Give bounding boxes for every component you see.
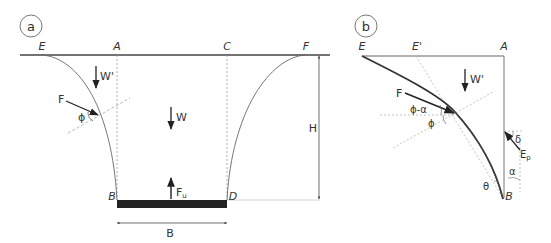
anchor-plate bbox=[117, 200, 227, 208]
force-w-prime: W' bbox=[100, 70, 114, 83]
point-d: D bbox=[229, 190, 237, 203]
diagram-canvas: a E A C F B D W' W F ϕ Fu bbox=[0, 0, 551, 243]
point-b-b: B bbox=[505, 190, 513, 203]
dimension-height: H bbox=[309, 122, 317, 135]
force-f: F bbox=[58, 93, 64, 106]
force-fu: Fu bbox=[176, 186, 187, 200]
angle-arc-phi-b bbox=[443, 115, 446, 124]
point-a: A bbox=[112, 40, 121, 53]
angle-arc-delta bbox=[511, 131, 513, 139]
angle-arc-alpha bbox=[508, 177, 520, 180]
point-e-prime: E' bbox=[412, 40, 422, 53]
panel-b: b E E' A B W' F ϕ-α ϕ δ Ep bbox=[355, 15, 531, 203]
force-f-b: F bbox=[396, 87, 402, 100]
angle-alpha: α bbox=[509, 166, 516, 177]
point-e: E bbox=[39, 40, 46, 53]
point-e-b: E bbox=[359, 40, 366, 53]
panel-a-label: a bbox=[27, 19, 35, 34]
angle-theta: θ bbox=[483, 181, 489, 192]
angle-delta: δ bbox=[515, 134, 521, 145]
force-ep: Ep bbox=[520, 149, 531, 162]
angle-arc-phi-minus-alpha bbox=[440, 105, 441, 115]
panel-b-label: b bbox=[362, 19, 370, 34]
angle-phi-minus-alpha: ϕ-α bbox=[410, 104, 427, 115]
angle-phi-b: ϕ bbox=[428, 118, 435, 129]
point-b: B bbox=[108, 190, 116, 203]
force-w: W bbox=[176, 111, 187, 124]
angle-phi: ϕ bbox=[78, 111, 85, 124]
dimension-width: B bbox=[166, 227, 174, 240]
point-a-b: A bbox=[499, 40, 508, 53]
force-w-prime-b: W' bbox=[470, 73, 484, 86]
panel-a: a E A C F B D W' W F ϕ Fu bbox=[20, 15, 330, 240]
point-f: F bbox=[303, 40, 310, 53]
point-c: C bbox=[223, 40, 231, 53]
slip-surface-right bbox=[227, 55, 305, 200]
